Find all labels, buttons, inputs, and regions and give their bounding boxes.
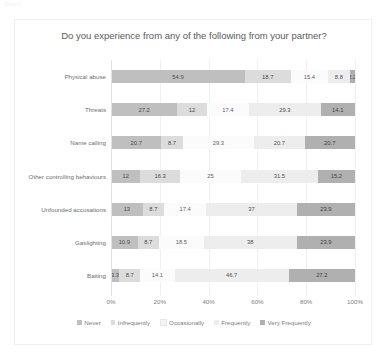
bar-segment[interactable]: 18.5 xyxy=(159,236,204,249)
legend-swatch-icon xyxy=(260,320,265,325)
category-label: Physical abuse xyxy=(0,70,106,83)
bar-segment[interactable]: 16.3 xyxy=(140,170,180,183)
x-axis-tick-label: 60% xyxy=(251,298,263,305)
bar-segment[interactable]: 17.4 xyxy=(207,103,249,116)
category-label: Gaslighting xyxy=(0,236,106,249)
bar-row[interactable]: Physical abuse54.918.715.48.82.2 xyxy=(111,70,355,83)
bar-segment[interactable]: 27.2 xyxy=(111,103,177,116)
bar-segment[interactable]: 14.1 xyxy=(140,269,174,282)
bar-segment[interactable]: 20.7 xyxy=(111,136,161,149)
legend-label: Infrequently xyxy=(118,319,150,326)
legend-label: Never xyxy=(84,319,101,326)
bar-segment[interactable]: 37 xyxy=(206,203,296,216)
bar-segment[interactable]: 8.7 xyxy=(143,203,164,216)
bar-segment[interactable]: 8.7 xyxy=(161,136,182,149)
category-label: Other controlling behaviours xyxy=(0,170,106,183)
x-axis-tick-label: 100% xyxy=(347,298,363,305)
legend-item[interactable]: Occasionally xyxy=(160,319,204,326)
bar-segment[interactable]: 23.9 xyxy=(297,203,355,216)
legend-swatch-icon xyxy=(77,320,82,325)
bar-segment[interactable]: 23.9 xyxy=(297,236,355,249)
bar-row[interactable]: Unfounded accusations138.717.43723.9 xyxy=(111,203,355,216)
bar-row[interactable]: Threats27.21217.429.314.1 xyxy=(111,103,355,116)
bar-segment[interactable]: 8.8 xyxy=(328,70,349,83)
bar-segment[interactable]: 12 xyxy=(111,170,140,183)
bar-row[interactable]: Name calling20.78.729.320.720.7 xyxy=(111,136,355,149)
category-label: Threats xyxy=(0,103,106,116)
bar-segment[interactable]: 27.2 xyxy=(289,269,355,282)
legend-swatch-icon xyxy=(160,319,167,326)
x-axis-tick-labels: 0%20%40%60%80%100% xyxy=(111,298,355,310)
legend-item[interactable]: Infrequently xyxy=(111,319,150,326)
gridline xyxy=(355,60,356,296)
bar-segment[interactable]: 29.3 xyxy=(183,136,254,149)
bar-row[interactable]: Gaslighting10.98.718.53823.9 xyxy=(111,236,355,249)
bar-segment[interactable]: 18.7 xyxy=(245,70,291,83)
bar-row[interactable]: Baiting3.38.714.146.727.2 xyxy=(111,269,355,282)
bar-segment[interactable]: 20.7 xyxy=(254,136,304,149)
chart-card: Do you experience from any of the follow… xyxy=(14,19,372,345)
watermark-text: Chart xyxy=(4,1,21,7)
category-label: Name calling xyxy=(0,136,106,149)
category-label: Unfounded accusations xyxy=(0,203,106,216)
legend-label: Very Frequently xyxy=(267,319,310,326)
bar-segment[interactable]: 2.2 xyxy=(350,70,355,83)
legend-item[interactable]: Never xyxy=(77,319,101,326)
bar-segment[interactable]: 15.4 xyxy=(291,70,329,83)
legend-swatch-icon xyxy=(214,320,219,325)
bar-segment[interactable]: 13 xyxy=(111,203,143,216)
bar-segment[interactable]: 31.5 xyxy=(241,170,318,183)
x-axis-tick-label: 20% xyxy=(154,298,166,305)
bar-segment[interactable]: 15.2 xyxy=(318,170,355,183)
category-label: Baiting xyxy=(0,269,106,282)
legend-item[interactable]: Frequently xyxy=(214,319,250,326)
legend-swatch-icon xyxy=(111,320,116,325)
x-axis-tick-label: 80% xyxy=(300,298,312,305)
chart-legend: NeverInfrequentlyOccasionallyFrequentlyV… xyxy=(15,319,373,326)
bar-segment[interactable]: 3.3 xyxy=(111,269,119,282)
bar-segment[interactable]: 25 xyxy=(180,170,241,183)
value-axis-line xyxy=(111,60,112,296)
bar-segment[interactable]: 29.3 xyxy=(249,103,320,116)
bar-segment[interactable]: 20.7 xyxy=(305,136,355,149)
legend-label: Occasionally xyxy=(169,319,204,326)
chart-title: Do you experience from any of the follow… xyxy=(61,29,327,42)
bar-segment[interactable]: 46.7 xyxy=(175,269,289,282)
bar-segment[interactable]: 10.9 xyxy=(111,236,138,249)
plot-area: Physical abuse54.918.715.48.82.2Threats2… xyxy=(111,60,355,292)
bar-segment[interactable]: 38 xyxy=(204,236,297,249)
x-axis-tick-label: 40% xyxy=(202,298,214,305)
bar-segment[interactable]: 12 xyxy=(177,103,206,116)
bar-segment[interactable]: 54.9 xyxy=(111,70,245,83)
bar-segment[interactable]: 8.7 xyxy=(119,269,140,282)
legend-item[interactable]: Very Frequently xyxy=(260,319,310,326)
bar-segment[interactable]: 14.1 xyxy=(321,103,355,116)
x-axis-tick-label: 0% xyxy=(107,298,116,305)
bar-segment[interactable]: 8.7 xyxy=(138,236,159,249)
bar-row[interactable]: Other controlling behaviours1216.32531.5… xyxy=(111,170,355,183)
legend-label: Frequently xyxy=(221,319,250,326)
bar-segment[interactable]: 17.4 xyxy=(164,203,206,216)
